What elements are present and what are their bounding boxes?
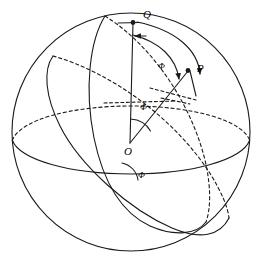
- label-angle-azimuth: Φ: [138, 171, 145, 180]
- meridian-arc-q-to-p: [137, 22, 200, 74]
- radius-vector-op: [130, 71, 188, 143]
- point-marker-p: [186, 68, 191, 73]
- tick-at-q: [118, 23, 140, 24]
- label-origin-o: O: [124, 146, 132, 157]
- sphere-outline: [12, 13, 250, 251]
- polar-axis-line: [130, 23, 133, 143]
- label-angle-arc-qp: Φ: [158, 62, 165, 71]
- label-point-q: Q: [143, 9, 151, 20]
- great-circle-two-back-arc: [105, 16, 210, 222]
- tangent-at-p: [190, 71, 196, 96]
- sphere-figure-svg: [0, 0, 263, 266]
- sphere-diagram: Q P O Φ Φ Φ: [0, 0, 263, 266]
- meridian-arc-inner: [133, 35, 179, 79]
- great-circle-one-back-arc: [53, 56, 229, 218]
- azimuth-angle-arc: [122, 163, 138, 180]
- label-angle-polar: Φ: [140, 103, 147, 112]
- label-point-p: P: [197, 63, 204, 74]
- point-marker-q: [131, 20, 136, 25]
- great-circle-one-front-arc: [47, 56, 229, 235]
